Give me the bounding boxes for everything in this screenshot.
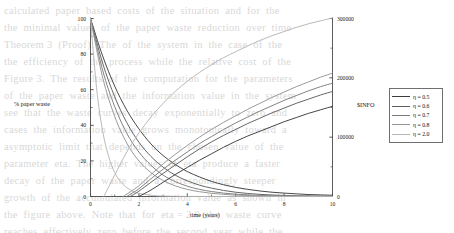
legend-item[interactable]: η = 0.5 — [392, 92, 440, 101]
y-axis-right-tick-label: 300000 — [337, 16, 354, 22]
y-axis-left-title: % paper waste — [14, 100, 50, 107]
y-axis-right-tick-label: 0 — [337, 194, 340, 200]
y-axis-left-tick-label: 40 — [80, 122, 86, 128]
y-axis-left-tick-label: 80 — [80, 51, 86, 57]
legend-line-icon — [392, 96, 410, 97]
legend-item[interactable]: η = 0.7 — [392, 111, 440, 120]
legend-line-icon — [392, 115, 410, 116]
y-axis-left-tick-label: 60 — [80, 87, 86, 93]
legend-item-label: η = 2.0 — [413, 130, 429, 138]
legend-item-label: η = 0.8 — [413, 121, 429, 129]
series-line — [91, 19, 333, 196]
series-line — [91, 19, 333, 197]
y-axis-right-tick-label: 200000 — [337, 75, 354, 81]
x-axis-tick-label: 6 — [234, 201, 237, 207]
chart-plot-area: 02040608010001000002000003000000246810 — [0, 0, 454, 233]
y-axis-left-tick-label: 20 — [80, 158, 86, 164]
y-axis-left-tick-label: 0 — [83, 194, 86, 200]
legend-item-label: η = 0.5 — [413, 93, 429, 101]
legend-item-label: η = 0.7 — [413, 111, 429, 119]
y-axis-right-title: $INFO — [357, 101, 375, 108]
figure-stage: calculated paper based costs of the situ… — [0, 0, 454, 233]
legend-item[interactable]: η = 0.6 — [392, 101, 440, 110]
x-axis-tick-label: 2 — [138, 201, 141, 207]
x-axis-tick-label: 4 — [186, 201, 189, 207]
series-line — [104, 18, 333, 197]
series-line — [91, 19, 333, 197]
x-axis-tick-label: 10 — [330, 201, 336, 207]
x-axis-tick-label: 8 — [283, 201, 286, 207]
legend-item[interactable]: η = 2.0 — [392, 130, 440, 139]
legend-line-icon — [392, 134, 410, 135]
series-line — [123, 73, 332, 196]
legend-line-icon — [392, 124, 410, 125]
series-line — [130, 91, 332, 196]
y-axis-right-tick-label: 100000 — [337, 134, 354, 140]
series-line — [91, 19, 333, 197]
legend-item[interactable]: η = 0.8 — [392, 120, 440, 129]
x-axis-tick-label: 0 — [89, 201, 92, 207]
x-axis-title: time (years) — [190, 211, 220, 218]
legend-line-icon — [392, 106, 410, 107]
chart-figure: 02040608010001000002000003000000246810 %… — [0, 0, 454, 233]
y-axis-left-tick-label: 100 — [78, 16, 87, 22]
series-line — [91, 19, 333, 197]
legend-item-label: η = 0.6 — [413, 102, 429, 110]
series-line — [127, 83, 333, 196]
chart-legend[interactable]: η = 0.5η = 0.6η = 0.7η = 0.8η = 2.0 — [389, 88, 443, 143]
